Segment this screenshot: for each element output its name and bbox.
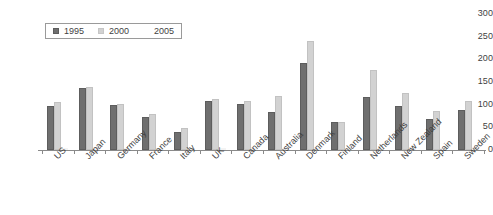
bar-1995 (205, 101, 212, 150)
legend-item-2000: 2000 (98, 27, 129, 36)
bar-2000 (117, 104, 124, 150)
bar-1995 (237, 104, 244, 150)
bar-group (263, 14, 295, 150)
legend-item-1995: 1995 (53, 27, 84, 36)
x-axis-tick-mark (484, 150, 485, 154)
legend-label-2000: 2000 (109, 27, 129, 36)
bar-group (200, 14, 232, 150)
bar-1995 (363, 97, 370, 150)
legend-swatch-2000 (98, 28, 104, 34)
bar-group (358, 14, 390, 150)
bar-2000 (307, 41, 314, 150)
bar-group (295, 14, 327, 150)
legend-label-1995: 1995 (64, 27, 84, 36)
bar-1995 (79, 88, 86, 150)
bar-1995 (110, 105, 117, 150)
legend-item-2005: 2005 (143, 27, 174, 36)
bar-chart: 050100150200250300 USJapanGermanyFranceI… (0, 0, 493, 215)
legend-swatch-2005 (143, 28, 149, 34)
legend-label-2005: 2005 (154, 27, 174, 36)
bar-2000 (465, 101, 472, 150)
bar-2000 (244, 101, 251, 150)
bar-1995 (47, 106, 54, 150)
bar-2000 (86, 87, 93, 150)
chart-legend: 1995 2000 2005 (45, 23, 182, 39)
x-axis-labels: USJapanGermanyFranceItalyUKCanadaAustral… (42, 152, 484, 212)
bar-group (231, 14, 263, 150)
bar-2000 (54, 102, 61, 150)
bar-1995 (268, 112, 275, 150)
bar-1995 (458, 110, 465, 150)
bar-group (453, 14, 485, 150)
legend-swatch-1995 (53, 28, 59, 34)
bar-2000 (275, 96, 282, 150)
bar-1995 (174, 132, 181, 150)
bar-2000 (212, 99, 219, 150)
bar-2000 (370, 70, 377, 150)
